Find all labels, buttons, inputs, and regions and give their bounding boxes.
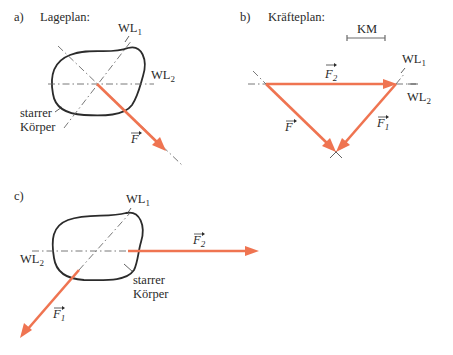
force-f-label-b: F [284,120,293,134]
panel-a-title: Lageplan: [40,10,90,24]
wl1-dash-b [396,73,405,84]
wl2-label-a: WL2 [151,68,175,84]
wl1-label-c: WL1 [126,192,150,208]
wl1-line-c [79,213,130,270]
force-f1-b [343,84,396,145]
force-diagram: a) Lageplan: WL1 WL2 starrer Körper F b)… [0,0,453,355]
wl1-label-a: WL1 [118,21,142,37]
force-f2-label-b: F2 [324,67,338,83]
wl1-label-b: WL1 [402,52,426,68]
f-dash-b [253,71,266,84]
force-f-label-a: F [130,132,139,146]
vector-arrow-icon [139,131,142,135]
rigid-body-outline-c [53,213,143,280]
arrowhead-icon [245,246,259,256]
rigid-body-outline-a [52,47,145,115]
force-f-a [97,84,159,144]
body-label-c-line2: Körper [133,287,169,301]
panel-a-lageplan: a) Lageplan: WL1 WL2 starrer Körper F [14,10,183,166]
vector-arrow-icon [202,232,205,236]
vector-arrow-icon [294,119,297,123]
force-f2-label-c: F2 [192,233,206,249]
body-label-a-line1: starrer [20,106,53,120]
panel-c-tag: c) [14,189,24,203]
force-f1-label-c: F1 [52,307,65,323]
body-leader-a [55,107,62,112]
panel-a-tag: a) [14,10,24,24]
panel-b-title: Kräfteplan: [268,10,325,24]
body-leader-c [124,264,133,272]
panel-b-tag: b) [240,10,250,24]
body-label-c-line1: starrer [133,273,166,287]
force-f-b [266,84,329,145]
force-f1-c [27,270,79,330]
wl1-leader-a [125,36,129,42]
vector-arrow-icon [334,63,337,67]
panel-c: c) WL1 WL2 F2 F1 starrer Körper [14,189,259,338]
vector-arrow-icon [62,306,65,310]
wl2-label-b: WL2 [407,90,431,106]
wl1-leader-b [401,68,405,73]
force-f1-label-b: F1 [376,116,389,132]
wl2-label-c: WL2 [20,252,44,268]
scale-label: KM [357,22,377,36]
vector-arrow-icon [386,115,389,119]
panel-b-kraefteplan: b) Kräfteplan: KM WL1 WL2 F2 F [240,10,431,158]
body-label-a-line2: Körper [20,120,56,134]
